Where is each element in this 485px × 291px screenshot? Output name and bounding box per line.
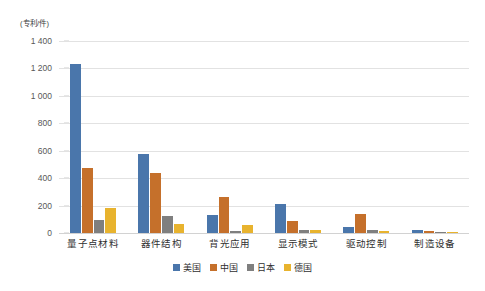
bar [287, 221, 298, 233]
x-axis-category-labels: 量子点材料器件结构背光应用显示模式驱动控制制造设备 [59, 236, 469, 250]
bar [242, 225, 253, 234]
y-axis-tick-label: 0 [10, 228, 52, 238]
bars [207, 41, 253, 233]
legend-swatch-icon [247, 264, 254, 271]
x-axis-category-label: 显示模式 [264, 236, 332, 250]
x-axis-category-label: 制造设备 [401, 236, 469, 250]
bar [310, 230, 321, 233]
legend-swatch-icon [284, 264, 291, 271]
y-axis-tick-label: 1 200 [10, 63, 52, 73]
legend: 美国中国日本德国 [0, 261, 485, 274]
bar [435, 232, 446, 233]
bars [70, 41, 116, 233]
bar [162, 216, 173, 233]
bar [82, 168, 93, 233]
bar [367, 230, 378, 233]
bar-group [264, 41, 332, 233]
legend-label: 美国 [183, 261, 201, 274]
legend-swatch-icon [173, 264, 180, 271]
bar [424, 231, 435, 233]
y-axis-tick-label: 600 [10, 146, 52, 156]
bar [150, 173, 161, 233]
bar [447, 232, 458, 233]
bar [230, 231, 241, 233]
bar-group [127, 41, 195, 233]
legend-label: 德国 [294, 261, 312, 274]
y-axis-unit-label: (专利/件) [20, 17, 49, 28]
y-axis-tick-labels: 02004006008001 0001 2001 400 [10, 41, 52, 233]
legend-item[interactable]: 美国 [173, 261, 201, 274]
legend-label: 中国 [220, 261, 238, 274]
bars [343, 41, 389, 233]
bars [412, 41, 458, 233]
y-axis-tick-label: 800 [10, 118, 52, 128]
bar [343, 227, 354, 233]
bar [219, 197, 230, 233]
x-axis-category-label: 驱动控制 [332, 236, 400, 250]
bar-group [332, 41, 400, 233]
y-axis-tick-label: 400 [10, 173, 52, 183]
x-axis-category-label: 器件结构 [127, 236, 195, 250]
bar [412, 230, 423, 233]
bar-group [401, 41, 469, 233]
legend-label: 日本 [257, 261, 275, 274]
bar [299, 230, 310, 233]
bar-groups [59, 41, 469, 233]
quantum-dot-patent-bar-chart: (专利/件) 02004006008001 0001 2001 400 量子点材… [0, 0, 485, 291]
x-axis-category-label: 量子点材料 [59, 236, 127, 250]
legend-swatch-icon [210, 264, 217, 271]
bar [275, 204, 286, 233]
legend-item[interactable]: 中国 [210, 261, 238, 274]
bar-group [196, 41, 264, 233]
bar-group [59, 41, 127, 233]
bars [275, 41, 321, 233]
bar [70, 64, 81, 233]
bar [207, 215, 218, 233]
bars [138, 41, 184, 233]
legend-item[interactable]: 日本 [247, 261, 275, 274]
gridline [59, 233, 469, 234]
bar [174, 224, 185, 233]
plot-area [59, 41, 469, 233]
y-axis-tick-label: 200 [10, 201, 52, 211]
y-axis-tick-label: 1 000 [10, 91, 52, 101]
x-axis-category-label: 背光应用 [196, 236, 264, 250]
legend-item[interactable]: 德国 [284, 261, 312, 274]
bar [94, 220, 105, 233]
bar [138, 154, 149, 233]
y-axis-tick-label: 1 400 [10, 36, 52, 46]
bar [105, 208, 116, 233]
bar [379, 231, 390, 233]
bar [355, 214, 366, 233]
